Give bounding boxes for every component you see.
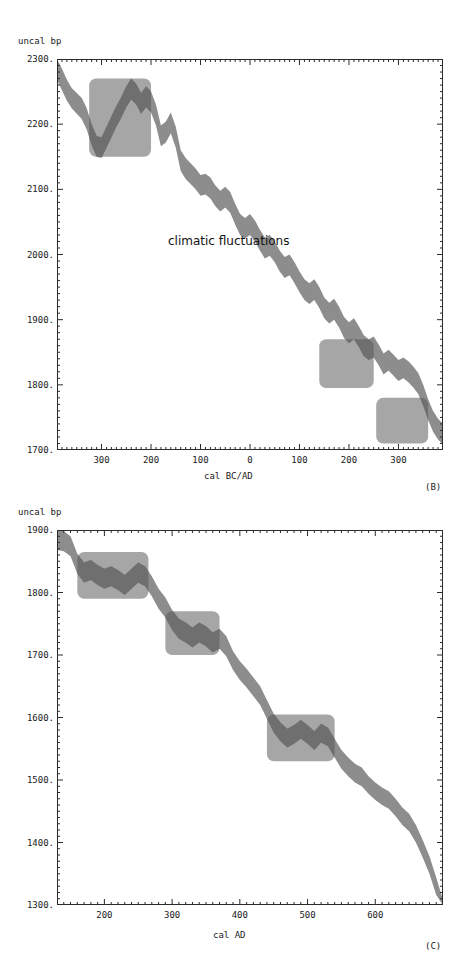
x-tick-label: 400 xyxy=(220,910,260,920)
panel-b: uncal bp 1700.1800.1900.2000.2100.2200.2… xyxy=(0,0,462,500)
x-tick-label: 300 xyxy=(378,455,418,465)
x-tick-label: 300 xyxy=(82,455,122,465)
x-tick-label: 0 xyxy=(230,455,270,465)
y-tick-label: 2100. xyxy=(8,184,54,194)
panel-c-y-axis-title: uncal bp xyxy=(18,507,61,517)
y-tick-label: 1600. xyxy=(8,713,54,723)
y-tick-label: 1400. xyxy=(8,838,54,848)
panel-c-plot-area xyxy=(57,530,443,905)
panel-c-axes-frame xyxy=(57,530,443,905)
y-tick-label: 2300. xyxy=(8,54,54,64)
x-tick-label: 200 xyxy=(131,455,171,465)
x-tick-label: 500 xyxy=(288,910,328,920)
y-tick-label: 1900. xyxy=(8,525,54,535)
y-tick-label: 1300. xyxy=(8,900,54,910)
x-tick-label: 100 xyxy=(181,455,221,465)
panel-c-x-axis-title: cal AD xyxy=(213,930,246,940)
y-tick-label: 2200. xyxy=(8,119,54,129)
panel-c: uncal bp 1300.1400.1500.1600.1700.1800.1… xyxy=(0,476,462,976)
panel-b-annotation: climatic fluctuations xyxy=(168,234,289,248)
y-tick-label: 1800. xyxy=(8,380,54,390)
y-tick-label: 1500. xyxy=(8,775,54,785)
x-tick-label: 200 xyxy=(329,455,369,465)
panel-c-letter: (C) xyxy=(425,941,441,951)
x-tick-label: 100 xyxy=(279,455,319,465)
x-tick-label: 600 xyxy=(355,910,395,920)
y-tick-label: 2000. xyxy=(8,250,54,260)
y-tick-label: 1700. xyxy=(8,445,54,455)
y-tick-label: 1900. xyxy=(8,315,54,325)
x-tick-label: 200 xyxy=(84,910,124,920)
panel-b-y-axis-title: uncal bp xyxy=(18,36,61,46)
panel-b-plot-area xyxy=(57,59,443,450)
y-tick-label: 1700. xyxy=(8,650,54,660)
y-tick-label: 1800. xyxy=(8,588,54,598)
x-tick-label: 300 xyxy=(152,910,192,920)
panel-b-axes-frame xyxy=(57,59,443,450)
